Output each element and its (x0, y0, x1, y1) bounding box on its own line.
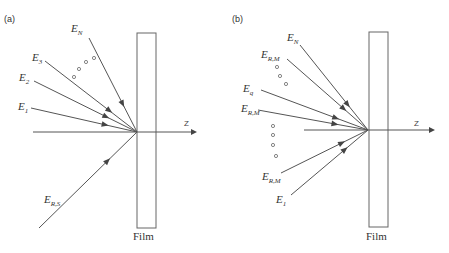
diagram-canvas: (a) Film Z ENE3E2E1ER,S (b) Film Z ENER,… (0, 0, 449, 253)
panel-a-film (137, 33, 156, 228)
ray-label: E1 (275, 193, 286, 208)
ray-e-r-m-upper (287, 59, 368, 130)
ray-arrowhead (331, 121, 338, 127)
ray-label: ER,S (43, 193, 61, 208)
ray-arrowhead (343, 100, 350, 107)
ray-label: E2 (18, 71, 30, 86)
ray-label: E3 (31, 51, 43, 66)
ellipsis-dot (275, 65, 278, 68)
ray-label: ER,M (261, 170, 282, 185)
ellipsis-dot (271, 143, 274, 146)
ray-label: EN (70, 22, 83, 37)
panel-b-film-label: Film (366, 230, 387, 242)
panel-b-ellipsis-lower (271, 124, 277, 157)
panel-b-label: (b) (232, 14, 243, 24)
ray-e-2 (34, 81, 137, 132)
ray-arrowhead (338, 141, 346, 147)
panel-a-z-label: Z (184, 119, 189, 128)
ellipsis-dot (84, 60, 87, 63)
ellipsis-dot (92, 56, 95, 59)
ray-e-r-s (39, 132, 137, 228)
panel-b: (b) Film Z ENER,MEqER,MER,ME1 (232, 14, 432, 242)
ray-arrowhead (119, 99, 125, 107)
ray-arrowhead (332, 114, 340, 119)
ellipsis-dot (271, 124, 274, 127)
ray-label: E1 (17, 100, 28, 115)
ray-label: ER,M (240, 102, 261, 117)
ellipsis-dot (271, 133, 274, 136)
ellipsis-dot (72, 75, 75, 78)
panel-a-film-label: Film (133, 230, 154, 242)
ray-arrowhead (102, 113, 110, 119)
panel-b-ellipsis-upper (275, 65, 287, 85)
panel-a-ellipsis (72, 56, 95, 78)
ray-label: EN (286, 31, 299, 46)
ellipsis-dot (274, 154, 277, 157)
ellipsis-dot (77, 67, 80, 70)
ellipsis-dot (278, 74, 281, 77)
ray-arrowhead (101, 121, 108, 126)
ray-e-n (89, 38, 137, 132)
panel-a-label: (a) (4, 14, 15, 24)
ray-label: ER,M (260, 48, 281, 63)
ellipsis-dot (284, 82, 287, 85)
panel-b-z-label: Z (414, 119, 419, 128)
ray-arrowhead (105, 106, 112, 112)
panel-a: (a) Film Z ENE3E2E1ER,S (4, 14, 194, 242)
ray-label: Eq (242, 82, 254, 97)
